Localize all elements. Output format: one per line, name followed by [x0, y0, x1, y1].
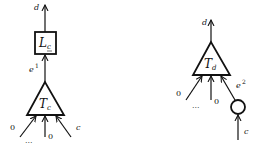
input-bottom-label: c	[244, 127, 249, 136]
input-dots: ...	[25, 136, 33, 145]
edge-label: e	[29, 65, 34, 74]
input-left	[186, 76, 202, 100]
input-left	[20, 116, 36, 137]
output-label: d	[202, 18, 207, 27]
edge-sup: 2	[242, 78, 246, 85]
node-circle	[231, 100, 245, 114]
input-dots: ...	[192, 101, 200, 110]
box-subscript: c	[47, 43, 51, 51]
left-diagram: d L c e 1 T c 0 ... 0 c	[10, 3, 81, 145]
edge-sup: 1	[35, 62, 39, 69]
input-left-label: 0	[10, 123, 15, 132]
input-middle-label: 0	[214, 97, 219, 106]
input-middle-label: 0	[48, 132, 53, 141]
right-diagram: d T d 0 ... 0 e 2 c	[176, 18, 249, 140]
input-right	[56, 116, 71, 137]
edge-label: e	[236, 81, 241, 90]
output-label: d	[34, 3, 39, 12]
input-right-label: c	[76, 123, 81, 132]
diagram-canvas: d L c e 1 T c 0 ... 0 c d T d 0 ... 0 e …	[0, 0, 258, 147]
input-left-label: 0	[176, 89, 181, 98]
triangle-sub: d	[212, 64, 217, 72]
box-label: L	[38, 36, 47, 50]
edge-e2	[221, 76, 235, 100]
triangle-sub: c	[47, 104, 51, 112]
